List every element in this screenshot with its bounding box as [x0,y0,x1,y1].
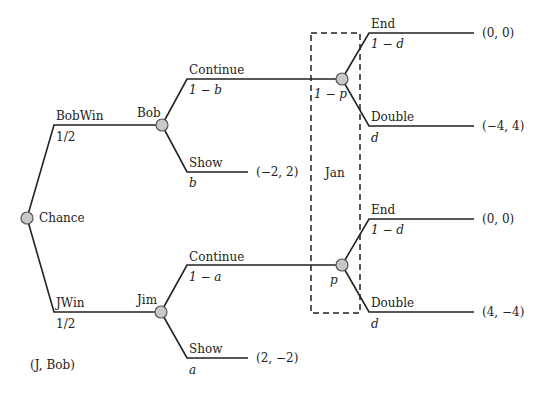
lower-double-payoff: (4, −4) [482,305,524,319]
jan-upper-node [336,73,348,85]
upper-double-payoff: (−4, 4) [482,119,524,133]
bob-continue-label: Continue [189,63,244,77]
jim-label: Jim [135,293,158,307]
lower-end-payoff: (0, 0) [482,212,514,226]
jan-upper-prob: 1 − p [314,87,347,101]
jim-continue-label: Continue [189,250,244,264]
jan-label: Jan [323,166,345,180]
lower-end-prob: 1 − d [371,223,404,237]
jim-continue-prob: 1 − a [189,270,221,284]
upper-end-prob: 1 − d [371,37,404,51]
jim-show-label: Show [189,342,223,356]
jan-lower-node [336,259,348,271]
bob-show-label: Show [189,156,223,170]
edge-lower-end [342,219,474,265]
jan-lower-prob: p [330,273,338,287]
bob-show-prob: b [189,176,197,190]
upper-double-label: Double [371,110,414,124]
lower-end-label: End [371,203,395,217]
chance-node [21,212,33,224]
lower-double-label: Double [371,296,414,310]
game-tree-diagram: Jan BobWin 1/2 JWin 1/2 Continue 1 − b S… [0,0,536,393]
jwin-prob: 1/2 [56,317,75,331]
edge-bobwin [27,125,162,218]
bobwin-prob: 1/2 [56,130,75,144]
edge-upper-end [342,33,474,79]
bob-label: Bob [137,106,161,120]
upper-end-label: End [371,17,395,31]
lower-double-prob: d [371,317,379,331]
jwin-label: JWin [54,296,85,310]
jim-show-payoff: (2, −2) [256,351,298,365]
jim-show-prob: a [189,363,196,377]
jim-node [155,306,167,318]
payoff-order-legend: (J, Bob) [30,358,75,372]
upper-end-payoff: (0, 0) [482,26,514,40]
chance-label: Chance [39,211,85,225]
bob-continue-prob: 1 − b [189,83,222,97]
bobwin-label: BobWin [56,109,104,123]
bob-node [156,119,168,131]
upper-double-prob: d [371,131,379,145]
bob-show-payoff: (−2, 2) [256,165,298,179]
